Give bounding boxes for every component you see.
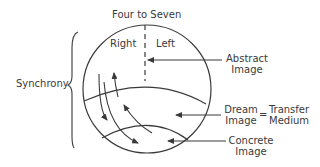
abstract-image-line1: Abstract bbox=[222, 54, 272, 64]
dream-band-upper-arc bbox=[84, 87, 206, 104]
upward-arrow-upper bbox=[114, 73, 118, 97]
concrete-image-line2: Image bbox=[226, 147, 276, 157]
dream-image-line2: Image bbox=[223, 116, 259, 126]
upward-arrow-lower bbox=[124, 105, 152, 133]
transfer-medium-label: Transfer Medium bbox=[264, 105, 314, 126]
right-hemisphere-label: Right bbox=[110, 39, 136, 49]
left-hemisphere-label: Left bbox=[156, 39, 175, 49]
concrete-band-arc bbox=[102, 125, 188, 140]
mind-circle bbox=[83, 25, 211, 153]
transfer-medium-line1: Transfer bbox=[264, 105, 314, 115]
abstract-image-line2: Image bbox=[222, 65, 272, 75]
dream-image-line1: Dream bbox=[223, 105, 259, 115]
synchrony-label: Synchrony bbox=[16, 79, 69, 89]
concrete-image-label: Concrete Image bbox=[226, 136, 276, 157]
concrete-image-line1: Concrete bbox=[226, 136, 276, 146]
abstract-image-label: Abstract Image bbox=[222, 54, 272, 75]
synchrony-brace bbox=[68, 32, 78, 148]
transfer-medium-line2: Medium bbox=[264, 116, 314, 126]
diagram-title: Four to Seven bbox=[112, 10, 181, 20]
dream-image-label: Dream Image bbox=[223, 105, 259, 126]
